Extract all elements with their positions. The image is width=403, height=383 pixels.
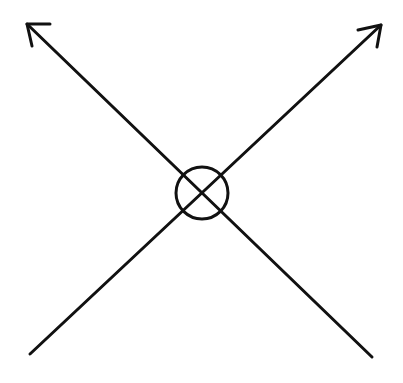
x-cross-diagram [0, 0, 403, 383]
diagonal-line-ne-sw [30, 25, 381, 354]
diagram-canvas [0, 0, 403, 383]
